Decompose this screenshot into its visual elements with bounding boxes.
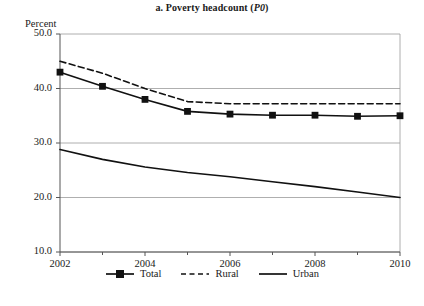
chart-legend: TotalRuralUrban [0,268,424,280]
series-marker-total [269,112,276,119]
series-marker-total [57,69,64,76]
gridlines [60,34,400,252]
legend-swatch-total [105,268,135,280]
legend-marker [116,270,124,278]
series-line-urban [60,150,400,198]
legend-item-total: Total [105,268,161,280]
legend-item-urban: Urban [258,268,319,280]
y-tick-label: 20.0 [12,191,52,202]
plot-area: 50.040.030.020.010.0 2002200420062008201… [0,0,424,306]
y-tick-label: 50.0 [12,27,52,38]
series-marker-total [312,112,319,119]
y-tick-label: 10.0 [12,245,52,256]
series-marker-total [227,111,234,118]
series-marker-total [99,83,106,90]
legend-swatch-rural [180,268,210,280]
tick-marks [56,34,400,256]
y-tick-label: 30.0 [12,136,52,147]
legend-label: Total [140,269,161,280]
series-line-rural [60,61,400,104]
legend-label: Rural [215,269,238,280]
series-marker-total [142,96,149,103]
series-line-total [60,72,400,116]
chart-figure: a. Poverty headcount (P0) Percent 50.040… [0,0,424,306]
series-marker-total [397,112,404,119]
series-marker-total [354,113,361,120]
series-marker-total [184,108,191,115]
legend-swatch-urban [258,268,288,280]
data-series-layer [57,61,404,197]
y-tick-label: 40.0 [12,82,52,93]
legend-item-rural: Rural [180,268,238,280]
legend-label: Urban [293,269,319,280]
